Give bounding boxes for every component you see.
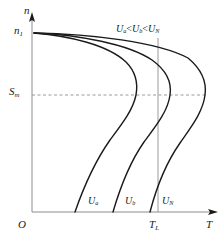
x-axis-label: T — [206, 219, 212, 230]
tl-tick-label: TL — [149, 219, 159, 231]
curve-label-un: UN — [162, 196, 173, 207]
sm-label: Sm — [9, 86, 19, 98]
n1-label: n1 — [14, 25, 23, 37]
speed-torque-characteristic-figure: n n1 Sm O TL T Ua<Ub<UN Ua Ub UN — [0, 0, 223, 242]
curve-ub — [34, 33, 170, 212]
y-axis-group — [29, 12, 35, 212]
plot-canvas — [0, 0, 223, 242]
x-axis-group — [32, 209, 218, 215]
curve-un — [34, 33, 205, 212]
voltage-inequality-annotation: Ua<Ub<UN — [116, 24, 159, 35]
y-axis-label: n — [24, 5, 30, 16]
curve-label-ua: Ua — [88, 196, 98, 207]
origin-label: O — [18, 219, 26, 230]
curve-label-ub: Ub — [125, 196, 135, 207]
